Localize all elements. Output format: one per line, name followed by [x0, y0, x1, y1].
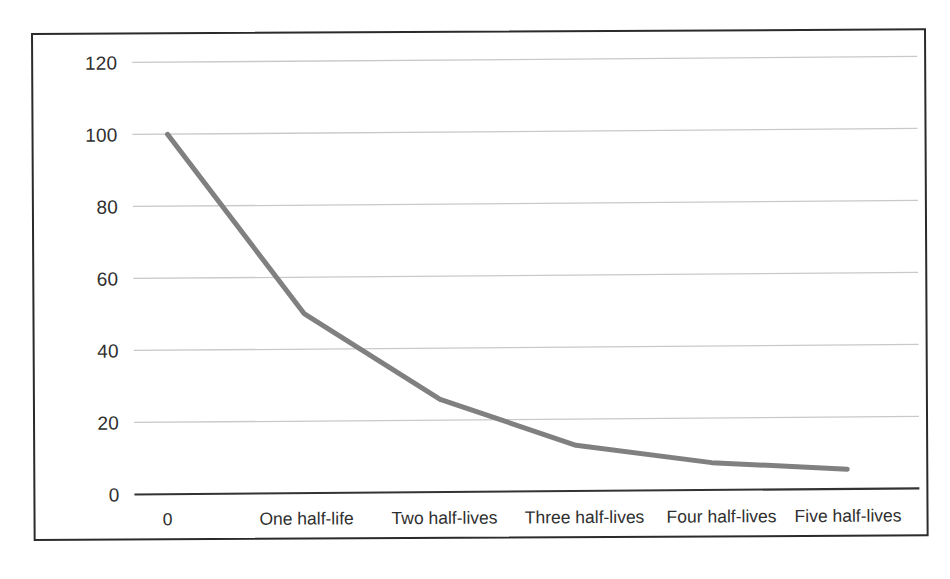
- x-tick-label-five-half-lives: Five half-lives: [775, 507, 920, 525]
- x-tick-label-three-half-lives: Three half-lives: [506, 509, 664, 527]
- x-tick-label-0: 0: [118, 511, 218, 529]
- gridline-20: [134, 416, 919, 422]
- y-tick-label-100: 100: [55, 126, 117, 145]
- y-tick-label-40: 40: [57, 342, 119, 361]
- chart-frame: 120 100 80 60 40 20 0 0 One half-life Tw…: [31, 28, 929, 541]
- gridline-120: [132, 56, 917, 62]
- plot-area: 120 100 80 60 40 20 0 0 One half-life Tw…: [33, 30, 931, 543]
- y-tick-label-0: 0: [57, 486, 119, 505]
- gridline-60: [133, 272, 918, 278]
- y-tick-label-80: 80: [56, 198, 118, 217]
- x-tick-label-two-half-lives: Two half-lives: [369, 509, 521, 527]
- y-tick-label-20: 20: [57, 414, 119, 433]
- x-tick-label-one-half-life: One half-life: [231, 510, 383, 528]
- gridline-80: [133, 200, 918, 206]
- y-tick-label-120: 120: [55, 54, 117, 73]
- chart-canvas: [33, 30, 931, 543]
- y-tick-label-60: 60: [56, 270, 118, 289]
- gridline-100: [133, 128, 918, 134]
- x-axis-line: [134, 488, 919, 494]
- gridline-40: [134, 344, 919, 350]
- figure-root: 120 100 80 60 40 20 0 0 One half-life Tw…: [0, 0, 950, 579]
